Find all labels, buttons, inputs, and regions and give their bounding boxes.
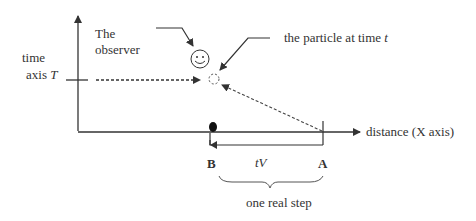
dashed-circle-particle-icon bbox=[209, 74, 219, 84]
diagram-canvas bbox=[0, 0, 476, 221]
filled-dot-particle-icon bbox=[209, 122, 217, 132]
time-axis-label-line1: time bbox=[22, 50, 45, 65]
point-b-label: B bbox=[207, 156, 216, 171]
time-axis-label-line2: axis T bbox=[26, 67, 57, 82]
particle-label: the particle at time t bbox=[284, 30, 388, 45]
brace-label: one real step bbox=[246, 195, 312, 210]
point-a-label: A bbox=[318, 156, 327, 171]
observer-label-line1: The bbox=[95, 26, 115, 41]
brace bbox=[219, 176, 323, 188]
observer-label-line2: observer bbox=[95, 42, 140, 57]
particle-pointer-arrow bbox=[220, 38, 270, 70]
time-axis-symbol: T bbox=[50, 67, 57, 82]
observer-pointer-arrow bbox=[156, 28, 193, 46]
displacement-label: tV bbox=[255, 155, 267, 170]
light-path-arrow bbox=[222, 85, 322, 131]
smiley-face-icon bbox=[191, 50, 209, 68]
displacement-arrow bbox=[210, 140, 323, 145]
time-axis-word: axis bbox=[26, 67, 47, 82]
particle-label-text: the particle at time bbox=[284, 30, 381, 45]
x-axis-label: distance (X axis) bbox=[366, 124, 454, 139]
particle-label-symbol: t bbox=[384, 30, 388, 45]
displacement-arrowhead bbox=[210, 141, 217, 149]
